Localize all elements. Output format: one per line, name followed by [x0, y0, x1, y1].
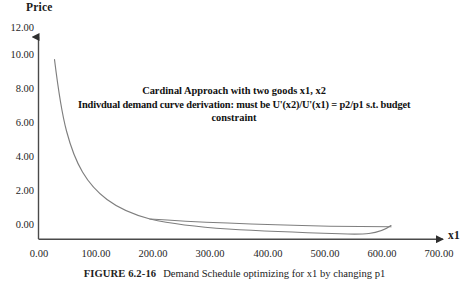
- x-tick-label-3: 300.00: [182, 248, 238, 259]
- y-tick-label-6: 12.00: [0, 22, 34, 33]
- chart-annotation: Cardinal Approach with two goods x1, x2 …: [78, 84, 390, 125]
- y-tick-label-1: 2.00: [0, 185, 34, 196]
- demand-curve-plot: [0, 0, 469, 283]
- x-tick-label-7: 700.00: [411, 248, 467, 259]
- annotation-line-2: Indivdual demand curve derivation: must …: [78, 98, 390, 112]
- figure-caption-text: Demand Schedule optimizing for x1 by cha…: [163, 268, 385, 279]
- y-tick-label-4: 8.00: [0, 83, 34, 94]
- annotation-line-1: Cardinal Approach with two goods x1, x2: [78, 84, 390, 98]
- x-tick-label-6: 600.00: [354, 248, 410, 259]
- y-tick-label-0: 0.00: [0, 219, 34, 230]
- x-axis-title: x1: [448, 229, 460, 241]
- y-tick-label-3: 6.00: [0, 117, 34, 128]
- figure-caption-number: FIGURE 6.2-16: [84, 268, 157, 279]
- x-tick-label-0: 0.00: [11, 248, 67, 259]
- x-tick-label-1: 100.00: [68, 248, 124, 259]
- annotation-line-3: constraint: [78, 111, 390, 125]
- figure-caption: FIGURE 6.2-16Demand Schedule optimizing …: [0, 268, 469, 279]
- y-axis-title: Price: [26, 1, 53, 13]
- x-tick-label-2: 200.00: [125, 248, 181, 259]
- y-tick-label-5: 10.00: [0, 49, 34, 60]
- x-tick-label-5: 500.00: [297, 248, 353, 259]
- x-tick-label-4: 400.00: [240, 248, 296, 259]
- y-tick-label-2: 4.00: [0, 151, 34, 162]
- figure-container: Price x1 0.00 2.00 4.00 6.00 8.00 10.00 …: [0, 0, 469, 283]
